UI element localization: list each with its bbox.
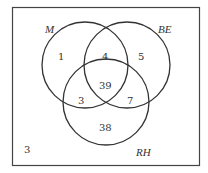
region-rh-only: 38 [99,122,112,133]
venn-diagram: M BE RH 1 4 5 39 3 7 38 3 [0,0,208,173]
region-outside: 3 [24,144,30,155]
region-be-rh: 7 [127,95,133,106]
set-label-m: M [44,23,55,35]
region-m-only: 1 [58,51,64,62]
region-m-rh: 3 [78,95,84,106]
region-m-be: 4 [102,51,108,62]
region-m-be-rh: 39 [99,80,112,91]
region-be-only: 5 [138,51,144,62]
set-label-rh: RH [135,146,152,158]
set-label-be: BE [158,23,172,35]
